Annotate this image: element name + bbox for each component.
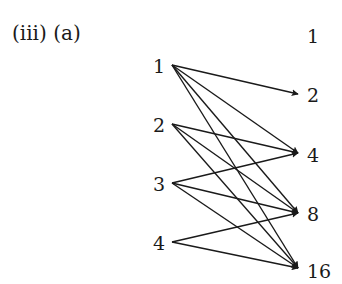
right-node-16: 16	[307, 262, 331, 281]
arrow-2-to-4	[172, 124, 298, 153]
right-node-2: 2	[307, 86, 319, 105]
left-node-4: 4	[153, 234, 165, 253]
arrow-1-to-2	[172, 65, 298, 94]
relation-arrows	[0, 0, 342, 284]
left-node-2: 2	[153, 116, 165, 135]
arrow-3-to-4	[172, 153, 298, 183]
right-node-4: 4	[307, 146, 319, 165]
left-node-3: 3	[153, 175, 165, 194]
left-node-1: 1	[153, 57, 165, 76]
right-node-8: 8	[307, 205, 319, 224]
right-node-1: 1	[307, 27, 319, 46]
arrow-3-to-8	[172, 183, 298, 213]
